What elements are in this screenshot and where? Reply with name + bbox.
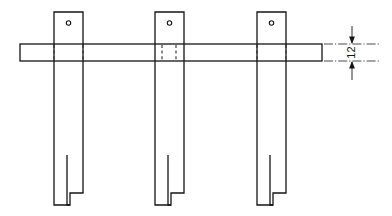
center-post-outline (155, 12, 184, 205)
center-post-fixing-hole-icon (167, 21, 171, 25)
drawing-svg: 12 (0, 0, 392, 216)
left-post-fixing-hole-icon (66, 21, 70, 25)
vertical-member-left-post (54, 12, 83, 205)
vertical-member-right-post (257, 12, 286, 205)
right-post-fixing-hole-icon (269, 21, 273, 25)
left-post-outline (54, 12, 83, 205)
right-post-outline (257, 12, 286, 205)
vertical-member-center-post (155, 12, 184, 205)
dimension-value-label: 12 (345, 46, 357, 58)
technical-drawing-canvas: 12 (0, 0, 392, 216)
